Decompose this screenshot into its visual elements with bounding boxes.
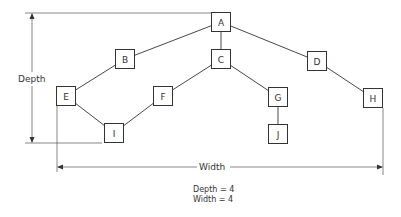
node-h: H	[364, 89, 383, 108]
depth-label: Depth	[18, 74, 45, 84]
node-label: D	[314, 57, 321, 67]
node-i: I	[105, 124, 124, 143]
node-label: H	[370, 94, 377, 104]
node-e: E	[57, 87, 76, 106]
edge-a-b	[125, 22, 221, 59]
node-label: I	[113, 129, 116, 139]
node-label: F	[160, 92, 165, 102]
node-label: E	[63, 92, 69, 102]
node-label: A	[218, 18, 225, 28]
caption-width: Width = 4	[193, 195, 233, 205]
edge-a-d	[221, 22, 317, 61]
node-label: G	[275, 93, 282, 103]
node-j: J	[269, 125, 288, 144]
node-f: F	[154, 87, 173, 106]
node-g: G	[269, 88, 288, 107]
node-a: A	[212, 13, 231, 32]
caption-depth: Depth = 4	[193, 185, 234, 195]
tree-edges	[66, 22, 373, 134]
node-label: B	[122, 55, 128, 65]
width-label: Width	[199, 162, 225, 172]
node-b: B	[116, 50, 135, 69]
node-label: J	[276, 130, 280, 140]
node-d: D	[308, 52, 327, 71]
tree-nodes: ABCDEFGHIJ	[57, 13, 383, 144]
node-label: C	[218, 55, 224, 65]
node-c: C	[212, 50, 231, 69]
